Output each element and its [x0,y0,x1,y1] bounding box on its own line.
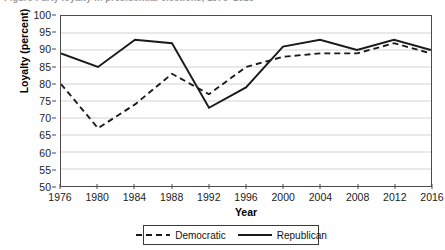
y-tick-label: 70 [39,112,51,124]
y-tick-mark [52,187,56,188]
x-tick-label: 1984 [123,191,146,203]
y-tick-mark [52,169,56,170]
chart-legend: DemocraticRepublican [143,225,319,245]
legend-label: Democratic [175,230,226,241]
y-tick-label: 80 [39,78,51,90]
x-tick-label: 2016 [420,191,443,203]
series-line-republican [61,40,431,108]
x-tick-mark [394,184,395,189]
data-series-layer [61,16,431,186]
x-axis-labels: 1976198019841988199219962000200420082012… [60,189,432,205]
y-tick-mark [52,66,56,67]
x-tick-label: 2004 [309,191,332,203]
y-axis-labels: 50556065707580859095100 [16,15,56,187]
y-tick-label: 65 [39,129,51,141]
x-tick-mark [134,184,135,189]
plot-area [60,15,432,187]
y-tick-mark [52,49,56,50]
x-tick-label: 2008 [346,191,369,203]
y-tick-mark [52,32,56,33]
legend-entry-democratic[interactable]: Democratic [135,230,226,241]
x-tick-mark [357,184,358,189]
y-tick-mark [52,135,56,136]
y-tick-label: 90 [39,43,51,55]
x-tick-label: 1976 [48,191,71,203]
y-tick-label: 75 [39,95,51,107]
y-tick-label: 85 [39,61,51,73]
x-tick-label: 2000 [272,191,295,203]
legend-label: Republican [277,230,327,241]
x-tick-mark [246,184,247,189]
x-tick-mark [171,184,172,189]
legend-entry-republican[interactable]: Republican [237,230,327,241]
legend-swatch-solid-line-icon [237,230,273,240]
y-tick-label: 100 [33,9,51,21]
x-tick-mark [432,184,433,189]
x-tick-label: 1980 [86,191,109,203]
x-tick-label: 1996 [234,191,257,203]
x-tick-label: 1992 [197,191,220,203]
x-tick-mark [283,184,284,189]
y-tick-mark [52,118,56,119]
legend-swatch-dashed-line-icon [135,230,171,240]
x-tick-mark [97,184,98,189]
figure-title-remnant: Figure Party loyalty in presidential ele… [4,0,334,3]
series-line-democratic [61,43,431,128]
x-tick-mark [320,184,321,189]
x-tick-mark [60,184,61,189]
chart-figure: Figure Party loyalty in presidential ele… [0,0,445,250]
y-tick-mark [52,101,56,102]
x-tick-mark [208,184,209,189]
y-tick-mark [52,152,56,153]
y-tick-label: 60 [39,147,51,159]
y-tick-mark [52,83,56,84]
x-tick-label: 2012 [383,191,406,203]
y-tick-label: 95 [39,26,51,38]
x-axis-title: Year [60,206,432,218]
y-tick-mark [52,15,56,16]
x-tick-label: 1988 [160,191,183,203]
y-tick-label: 55 [39,164,51,176]
